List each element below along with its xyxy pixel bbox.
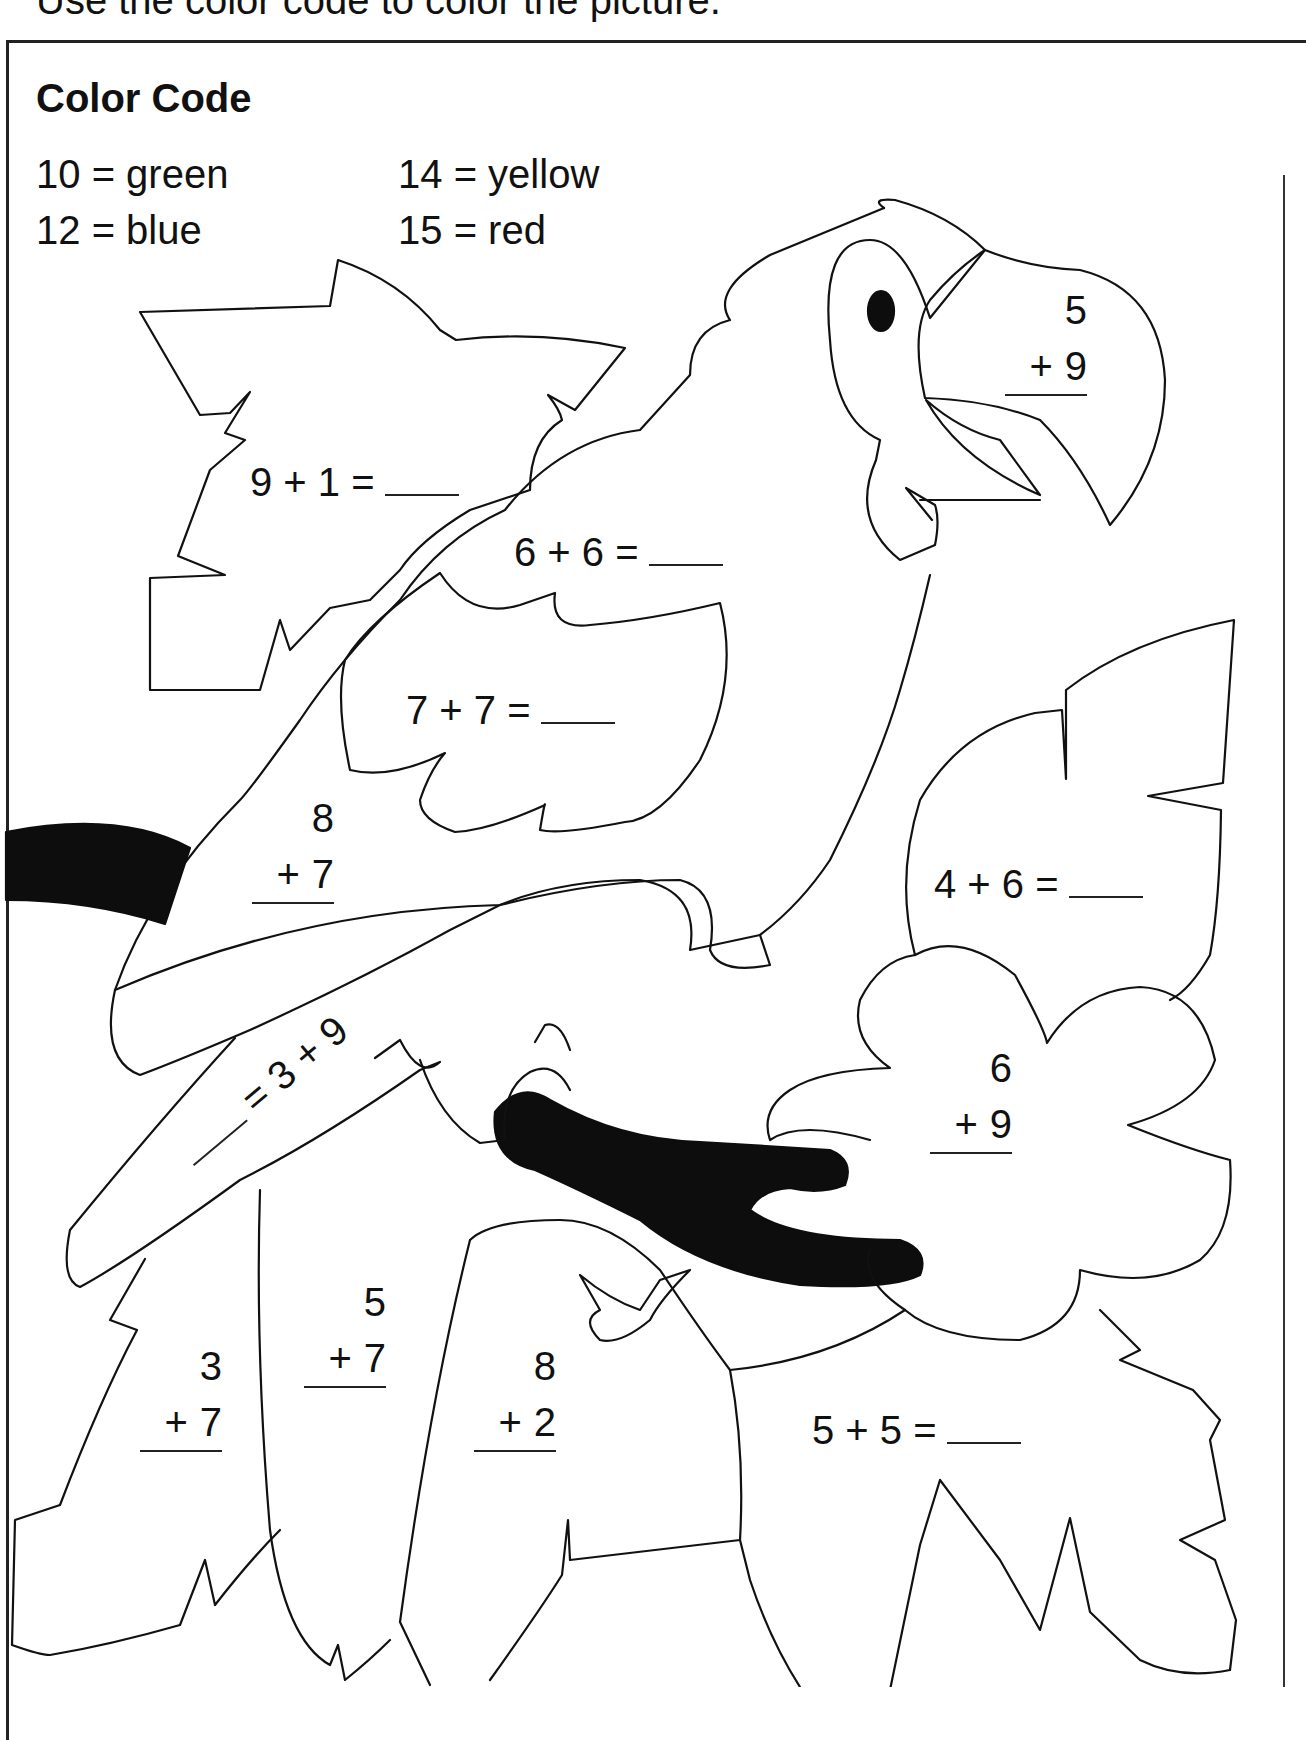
tail-feather-left-region[interactable] [259, 1190, 390, 1680]
tail-feather-right-region[interactable] [400, 1240, 470, 1685]
problem-wing: 7 + 7 = [406, 690, 615, 730]
problem-leaf-bottom-right: 5 + 5 = [812, 1410, 1021, 1450]
leaf-right-region[interactable] [906, 620, 1234, 1000]
leaf-bottom-center-region[interactable] [470, 1220, 800, 1687]
branch-right [495, 1092, 923, 1286]
parrot-head-region[interactable] [828, 200, 985, 560]
leaf-bottom-right-region[interactable] [730, 1310, 1236, 1687]
problem-tail-feather: 5 +7 [304, 1274, 386, 1388]
branch-left [6, 824, 190, 924]
color-code-title: Color Code [36, 76, 252, 121]
leaf-bottom-left-region[interactable] [12, 1259, 280, 1655]
answer-blank[interactable] [541, 692, 615, 724]
problem-leaf-bottom-center: 8 +2 [474, 1338, 556, 1452]
problem-leaf-top-left: 9 + 1 = [250, 462, 459, 502]
color-code-item-blue: 12 = blue [36, 208, 202, 253]
answer-blank[interactable] [649, 534, 723, 566]
problem-leaf-right: 4 + 6 = [934, 864, 1143, 904]
problem-parrot-back: 8 +7 [252, 790, 334, 904]
problem-flower: 6 +9 [930, 1040, 1012, 1154]
flower-bud [580, 1270, 690, 1341]
color-code-item-green: 10 = green [36, 152, 228, 197]
answer-blank[interactable] [947, 1412, 1021, 1444]
parrot-body-region[interactable] [111, 208, 930, 1075]
parrot-eye-icon [868, 291, 894, 331]
answer-blank[interactable] [1069, 866, 1143, 898]
answer-blank[interactable] [385, 464, 459, 496]
problem-parrot-neck: 6 + 6 = [514, 532, 723, 572]
color-code-item-yellow: 14 = yellow [398, 152, 599, 197]
problem-leaf-bottom-left: 3 +7 [140, 1338, 222, 1452]
problem-beak: 5 +9 [1005, 282, 1087, 396]
color-code-item-red: 15 = red [398, 208, 546, 253]
